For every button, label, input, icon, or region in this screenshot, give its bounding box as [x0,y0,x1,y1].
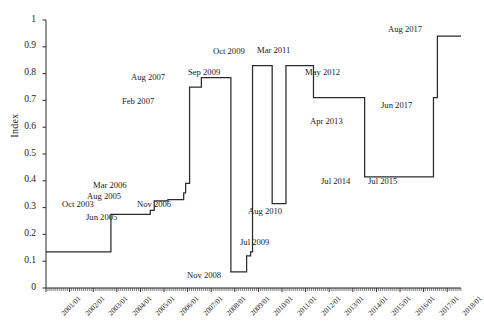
x-tick-marks [46,288,461,292]
data-annotation: Aug 2005 [87,191,121,201]
data-annotation: Jun 2017 [381,100,412,110]
data-annotation: Apr 2013 [310,116,343,126]
data-annotation: Sep 2009 [188,67,220,77]
data-annotation: Aug 2010 [248,206,282,216]
data-annotation: Jul 2009 [240,237,269,247]
data-annotation: Oct 2009 [213,46,245,56]
data-annotation: Mar 2011 [257,45,290,55]
data-annotation: Nov 2006 [137,199,171,209]
data-annotation: Jul 2015 [368,176,397,186]
data-annotation: Mar 2006 [93,180,127,190]
data-annotation: Jul 2014 [321,176,350,186]
data-annotation: May 2012 [305,67,340,77]
data-annotation: Aug 2007 [131,72,165,82]
y-tick-marks [43,20,47,288]
data-annotation: Nov 2008 [187,270,221,280]
data-annotation: Aug 2017 [388,24,422,34]
data-annotation: Feb 2007 [122,96,154,106]
data-annotation: Jun 2005 [86,212,117,222]
